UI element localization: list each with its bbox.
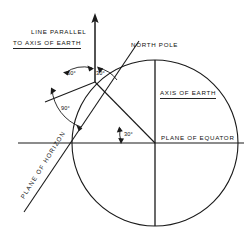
arc-60-arrowhead-right-icon (87, 66, 94, 72)
angle-label-60: 60° (67, 70, 76, 76)
angle-label-90-text: 90° (61, 105, 70, 111)
angle-label-30-vertex: 30° (96, 70, 105, 76)
angle-label-60-text: 60° (67, 70, 76, 76)
earth-axis-horizon-diagram (0, 0, 251, 251)
label-axis-of-earth-text: AXIS OF EARTH (160, 89, 216, 96)
label-plane-of-equator: PLANE OF EQUATOR (161, 134, 235, 142)
label-plane-of-equator-text: PLANE OF EQUATOR (161, 134, 235, 141)
arc-30-equator-arrowhead-top-icon (117, 126, 123, 132)
angle-label-30-equator: 30° (124, 131, 133, 137)
label-north-pole-text: NORTH POLE (131, 41, 178, 48)
angle-label-90: 90° (61, 105, 70, 111)
arc-90-arrowhead-top-icon (51, 87, 57, 94)
label-axis-of-earth: AXIS OF EARTH (160, 89, 216, 99)
label-line-parallel-text2: TO AXIS OF EARTH (13, 39, 81, 46)
label-line-parallel-row2: TO AXIS OF EARTH (13, 39, 81, 49)
diagram-canvas: LINE PARALLEL TO AXIS OF EARTH NORTH POL… (0, 0, 251, 251)
angle-label-30-vertex-text: 30° (96, 70, 105, 76)
angle-label-30-equator-text: 30° (124, 131, 133, 137)
label-north-pole: NORTH POLE (131, 41, 178, 49)
label-line-parallel-row1: LINE PARALLEL (31, 28, 86, 36)
label-line-parallel-text1: LINE PARALLEL (31, 28, 86, 35)
